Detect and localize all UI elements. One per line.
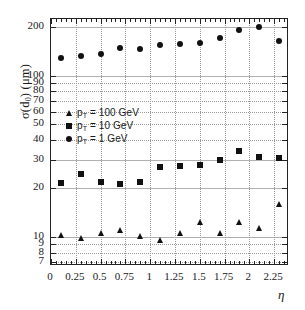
x-axis-minor-tick bbox=[244, 261, 245, 264]
data-point-circle bbox=[78, 53, 84, 59]
x-axis-tick-top bbox=[125, 19, 126, 24]
x-axis-minor-tick bbox=[106, 261, 107, 264]
x-axis-tick-top bbox=[225, 19, 226, 24]
y-axis-tick-right bbox=[282, 76, 287, 77]
x-axis-minor-tick bbox=[284, 261, 285, 264]
y-axis-tick-label: 50 bbox=[0, 117, 44, 128]
data-point-circle bbox=[197, 40, 203, 46]
x-axis-minor-tick-top bbox=[244, 19, 245, 22]
x-axis-minor-tick bbox=[155, 261, 156, 264]
x-axis-minor-tick bbox=[111, 261, 112, 264]
x-axis-minor-tick bbox=[91, 261, 92, 264]
legend-label-pt-10gev: pT = 10 GeV bbox=[77, 120, 133, 132]
x-axis-tick bbox=[76, 259, 77, 264]
x-axis-minor-tick-top bbox=[284, 19, 285, 22]
gridline-horizontal bbox=[51, 160, 287, 161]
x-axis-tick bbox=[175, 259, 176, 264]
x-axis-tick bbox=[200, 259, 201, 264]
y-axis-tick bbox=[51, 91, 56, 92]
x-axis-tick bbox=[225, 259, 226, 264]
x-axis-minor-tick-top bbox=[215, 19, 216, 22]
x-axis-minor-tick bbox=[61, 261, 62, 264]
gridline-horizontal bbox=[51, 101, 287, 102]
gridline-vertical bbox=[249, 19, 250, 264]
x-axis-tick bbox=[125, 259, 126, 264]
data-point-square bbox=[137, 179, 143, 185]
data-point-square bbox=[78, 171, 84, 177]
x-axis-minor-tick bbox=[210, 261, 211, 264]
x-axis-minor-tick bbox=[96, 261, 97, 264]
x-axis-minor-tick-top bbox=[170, 19, 171, 22]
x-axis-tick-top bbox=[51, 19, 52, 24]
x-axis-minor-tick bbox=[165, 261, 166, 264]
legend: pT = 100 GeV pT = 10 GeV pT = 1 GeV bbox=[63, 106, 139, 145]
data-point-triangle bbox=[197, 219, 203, 225]
data-point-triangle bbox=[117, 227, 123, 233]
x-axis-minor-tick bbox=[120, 261, 121, 264]
x-axis-minor-tick-top bbox=[66, 19, 67, 22]
y-axis-tick-label: 200 bbox=[0, 20, 44, 31]
y-axis-tick-label: 7 bbox=[0, 255, 44, 266]
x-axis-minor-tick bbox=[71, 261, 72, 264]
square-marker-icon bbox=[63, 123, 74, 129]
y-axis-tick bbox=[51, 76, 56, 77]
gridline-horizontal bbox=[51, 237, 287, 238]
y-axis-tick bbox=[51, 237, 56, 238]
data-point-circle bbox=[117, 45, 123, 51]
x-axis-minor-tick-top bbox=[111, 19, 112, 22]
x-axis-tick-top bbox=[150, 19, 151, 24]
y-axis-tick-right bbox=[282, 237, 287, 238]
x-axis-minor-tick-top bbox=[210, 19, 211, 22]
y-axis-tick-right bbox=[282, 140, 287, 141]
x-axis-minor-tick-top bbox=[140, 19, 141, 22]
x-axis-minor-tick bbox=[56, 261, 57, 264]
gridline-horizontal bbox=[51, 91, 287, 92]
y-axis-tick bbox=[51, 83, 56, 84]
x-axis-minor-tick-top bbox=[264, 19, 265, 22]
gridline-horizontal bbox=[51, 76, 287, 77]
x-axis-tick bbox=[51, 259, 52, 264]
x-axis-tick bbox=[274, 259, 275, 264]
data-point-square bbox=[177, 163, 183, 169]
data-point-square bbox=[58, 180, 64, 186]
x-axis-minor-tick-top bbox=[135, 19, 136, 22]
data-point-square bbox=[276, 155, 282, 161]
y-axis-tick-label: 60 bbox=[0, 105, 44, 116]
legend-label-pt-1gev: pT = 1 GeV bbox=[77, 133, 128, 145]
y-axis-tick bbox=[51, 112, 56, 113]
x-axis-minor-tick-top bbox=[160, 19, 161, 22]
data-point-triangle bbox=[137, 233, 143, 239]
x-axis-minor-tick bbox=[160, 261, 161, 264]
x-axis-minor-tick bbox=[279, 261, 280, 264]
y-axis-tick-right bbox=[282, 101, 287, 102]
x-axis-minor-tick-top bbox=[269, 19, 270, 22]
x-axis-minor-tick-top bbox=[96, 19, 97, 22]
y-axis-tick bbox=[51, 124, 56, 125]
data-point-triangle bbox=[276, 201, 282, 207]
data-point-square bbox=[217, 157, 223, 163]
y-axis-tick bbox=[51, 27, 56, 28]
x-axis-minor-tick-top bbox=[145, 19, 146, 22]
x-axis-minor-tick bbox=[234, 261, 235, 264]
x-axis-title: η bbox=[278, 287, 284, 303]
gridline-vertical bbox=[200, 19, 201, 264]
figure-scatter-plot: σ(d0) (μm) η 200100908070605040302010987… bbox=[0, 0, 305, 310]
data-point-triangle bbox=[236, 219, 242, 225]
data-point-circle bbox=[177, 41, 183, 47]
x-axis-minor-tick-top bbox=[279, 19, 280, 22]
x-axis-minor-tick bbox=[130, 261, 131, 264]
legend-item-pt-1gev: pT = 1 GeV bbox=[63, 132, 139, 145]
x-axis-minor-tick-top bbox=[259, 19, 260, 22]
x-axis-minor-tick bbox=[190, 261, 191, 264]
y-axis-tick bbox=[51, 188, 56, 189]
legend-item-pt-100gev: pT = 100 GeV bbox=[63, 106, 139, 119]
gridline-horizontal bbox=[51, 244, 287, 245]
x-axis-minor-tick-top bbox=[155, 19, 156, 22]
x-axis-minor-tick bbox=[145, 261, 146, 264]
x-axis-minor-tick bbox=[230, 261, 231, 264]
x-axis-minor-tick bbox=[86, 261, 87, 264]
x-axis-minor-tick-top bbox=[230, 19, 231, 22]
y-axis-tick bbox=[51, 160, 56, 161]
x-axis-minor-tick bbox=[264, 261, 265, 264]
y-axis-tick-right bbox=[282, 124, 287, 125]
